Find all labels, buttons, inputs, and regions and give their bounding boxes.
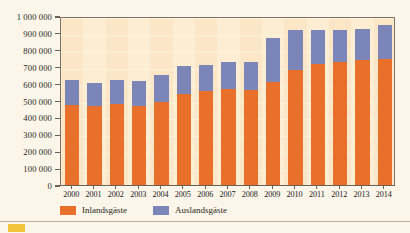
x-axis-tick-label: 2004: [153, 190, 169, 199]
legend-swatch-inland: [60, 206, 76, 215]
bar-segment-ausland[interactable]: [132, 81, 146, 106]
bar-segment-inland[interactable]: [288, 70, 302, 185]
chart-legend: InlandsgästeAuslandsgäste: [60, 205, 227, 215]
x-axis-tick: 2009: [264, 186, 280, 199]
x-axis-tick: 2002: [108, 186, 124, 199]
bar-group[interactable]: [154, 16, 168, 185]
x-axis-tick: 2000: [63, 186, 79, 199]
x-axis-tick-mark: [205, 186, 206, 189]
bar-group[interactable]: [288, 16, 302, 185]
bar-group[interactable]: [378, 16, 392, 185]
bar-segment-inland[interactable]: [65, 105, 79, 185]
bar-group[interactable]: [132, 16, 146, 185]
legend-entry[interactable]: Auslandsgäste: [153, 205, 227, 215]
bar-group[interactable]: [355, 16, 369, 185]
y-axis-tick-label: 1 000 000: [17, 12, 55, 22]
bar-segment-ausland[interactable]: [311, 30, 325, 65]
x-axis-tick: 2006: [197, 186, 213, 199]
y-axis-tick: 600 000: [23, 80, 60, 90]
x-axis-tick-label: 2000: [63, 190, 79, 199]
x-axis-tick-label: 2005: [175, 190, 191, 199]
bar-segment-ausland[interactable]: [87, 83, 101, 106]
y-axis: 0100 000200 000300 000400 000500 000600 …: [0, 17, 60, 186]
x-axis-tick-mark: [115, 186, 116, 189]
bar-segment-inland[interactable]: [132, 106, 146, 185]
bar-segment-ausland[interactable]: [65, 80, 79, 105]
x-axis-tick-label: 2009: [264, 190, 280, 199]
bar-segment-ausland[interactable]: [266, 38, 280, 82]
y-axis-tick: 700 000: [23, 63, 60, 73]
x-axis-tick-mark: [182, 186, 183, 189]
legend-swatch-ausland: [153, 206, 169, 215]
x-axis: 2000200120022003200420052006200720082009…: [60, 186, 395, 202]
x-axis-tick: 2011: [309, 186, 325, 199]
bar-segment-ausland[interactable]: [355, 29, 369, 60]
y-axis-tick-label: 0: [48, 181, 55, 191]
bar-segment-inland[interactable]: [221, 89, 235, 185]
x-axis-tick: 2010: [287, 186, 303, 199]
bar-segment-inland[interactable]: [333, 62, 347, 185]
bar-segment-inland[interactable]: [355, 60, 369, 185]
x-axis-tick-mark: [138, 186, 139, 189]
bar-segment-inland[interactable]: [177, 94, 191, 185]
y-axis-tick: 900 000: [23, 29, 60, 39]
legend-entry[interactable]: Inlandsgäste: [60, 205, 127, 215]
bar-segment-inland[interactable]: [311, 64, 325, 185]
bar-segment-ausland[interactable]: [199, 65, 213, 91]
bar-group[interactable]: [110, 16, 124, 185]
x-axis-tick-mark: [339, 186, 340, 189]
bar-segment-inland[interactable]: [378, 59, 392, 185]
x-axis-tick: 2008: [242, 186, 258, 199]
y-axis-tick-label: 400 000: [23, 113, 55, 123]
x-axis-tick-label: 2011: [309, 190, 325, 199]
bar-segment-inland[interactable]: [266, 82, 280, 185]
y-axis-tick: 1 000 000: [17, 12, 60, 22]
x-axis-tick-label: 2002: [108, 190, 124, 199]
footer-highlight-marker: [8, 224, 25, 232]
bar-segment-ausland[interactable]: [221, 62, 235, 89]
bar-segment-ausland[interactable]: [154, 75, 168, 102]
bar-segment-ausland[interactable]: [177, 66, 191, 94]
bar-segment-ausland[interactable]: [288, 30, 302, 71]
x-axis-tick: 2001: [86, 186, 102, 199]
bar-segment-ausland[interactable]: [110, 80, 124, 104]
bar-group[interactable]: [221, 16, 235, 185]
bar-group[interactable]: [311, 16, 325, 185]
bar-segment-inland[interactable]: [154, 102, 168, 185]
legend-label: Inlandsgäste: [82, 205, 127, 215]
y-axis-tick-label: 500 000: [23, 97, 55, 107]
y-axis-tick-label: 900 000: [23, 29, 55, 39]
y-axis-tick-label: 300 000: [23, 130, 55, 140]
bar-segment-ausland[interactable]: [378, 25, 392, 59]
x-axis-tick-mark: [272, 186, 273, 189]
bar-segment-inland[interactable]: [110, 104, 124, 185]
bar-group[interactable]: [177, 16, 191, 185]
x-axis-tick-mark: [316, 186, 317, 189]
y-axis-tick: 100 000: [23, 164, 60, 174]
x-axis-tick: 2007: [220, 186, 236, 199]
x-axis-tick: 2012: [331, 186, 347, 199]
bar-group[interactable]: [266, 16, 280, 185]
bar-group[interactable]: [244, 16, 258, 185]
bar-segment-inland[interactable]: [244, 90, 258, 185]
bar-group[interactable]: [333, 16, 347, 185]
x-axis-tick-label: 2001: [86, 190, 102, 199]
y-axis-tick-label: 100 000: [23, 164, 55, 174]
bar-segment-ausland[interactable]: [244, 62, 258, 90]
bar-group[interactable]: [65, 16, 79, 185]
x-axis-tick-label: 2003: [130, 190, 146, 199]
x-axis-tick-mark: [71, 186, 72, 189]
x-axis-tick: 2014: [376, 186, 392, 199]
bar-group[interactable]: [87, 16, 101, 185]
x-axis-tick-mark: [249, 186, 250, 189]
bar-segment-ausland[interactable]: [333, 30, 347, 62]
bar-group[interactable]: [199, 16, 213, 185]
bar-segment-inland[interactable]: [199, 91, 213, 185]
y-axis-tick-label: 200 000: [23, 147, 55, 157]
x-axis-tick-label: 2006: [197, 190, 213, 199]
x-axis-tick: 2013: [354, 186, 370, 199]
x-axis-tick: 2003: [130, 186, 146, 199]
x-axis-tick-mark: [383, 186, 384, 189]
bar-segment-inland[interactable]: [87, 106, 101, 185]
y-axis-tick: 800 000: [23, 46, 60, 56]
